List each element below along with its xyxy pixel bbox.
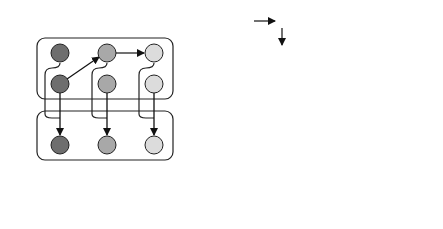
state-node-2b [98, 75, 116, 93]
state-node-1b [51, 75, 69, 93]
state-node-3a [145, 44, 163, 62]
policy-arrow-left [268, 62, 293, 104]
state-node-2a [98, 44, 116, 62]
panel-b [254, 21, 295, 105]
obs-node-2 [98, 136, 116, 154]
pi-to-b-left-edge [268, 62, 295, 104]
pi-to-b-left [268, 62, 292, 105]
state-node-3b [145, 75, 163, 93]
pi-left-line [268, 62, 293, 104]
policy-wire-left [268, 62, 292, 104]
pi-edge-to-b1 [268, 62, 292, 104]
diagram-canvas [0, 0, 443, 229]
obs-node-3 [145, 136, 163, 154]
obs-node-1 [51, 136, 69, 154]
policy-to-b-left [268, 62, 293, 66]
policy-left-edge [268, 62, 294, 104]
state-node-1a [51, 44, 69, 62]
panel-a [37, 38, 173, 160]
transition-arrow-1 [67, 57, 99, 79]
